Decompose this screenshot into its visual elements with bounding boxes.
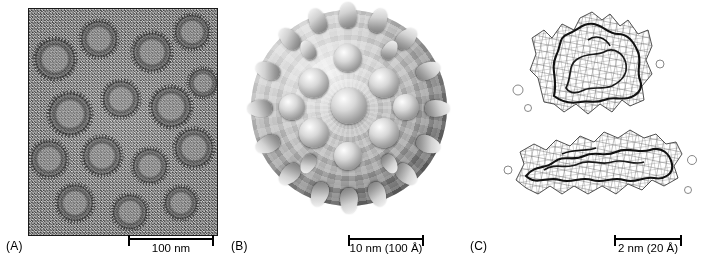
- figure-panel-group: (A) 100 nm: [0, 0, 724, 278]
- capsid-spike: [339, 2, 357, 28]
- panel-b-label: (B): [231, 239, 248, 253]
- panel-c: [492, 4, 714, 232]
- panel-b-scalebar: 10 nm (100 Å): [348, 238, 424, 254]
- capsomer: [369, 68, 399, 98]
- virus-particle: [81, 21, 117, 57]
- panel-b: [243, 6, 455, 228]
- cryo-em-micrograph-image: [28, 8, 218, 236]
- virus-particle: [175, 15, 209, 49]
- capsomer: [393, 94, 419, 120]
- panel-a-scalebar: 100 nm: [128, 238, 214, 254]
- panel-a-scalebar-label: 100 nm: [128, 242, 214, 254]
- panel-a-scalebar-line: [128, 238, 214, 240]
- virus-particle: [103, 81, 139, 117]
- capsomer: [369, 118, 399, 148]
- capsid-spike: [340, 188, 358, 214]
- capsomer: [299, 68, 329, 98]
- virus-particle: [83, 137, 121, 175]
- virus-particle: [49, 93, 91, 135]
- capsid-spike: [247, 100, 272, 117]
- virus-particle: [31, 141, 67, 177]
- panel-b-scalebar-label: 10 nm (100 Å): [348, 242, 424, 254]
- virus-particle: [57, 185, 93, 221]
- density-map-mesh-svg: [492, 4, 714, 232]
- capsomer: [279, 94, 305, 120]
- virus-particle: [175, 129, 213, 167]
- panel-c-label: (C): [470, 239, 487, 253]
- virus-particle: [133, 33, 171, 71]
- capsomer: [334, 44, 362, 72]
- density-mesh-bottom: [492, 122, 714, 232]
- panel-b-scalebar-line: [348, 238, 424, 240]
- capsomer: [331, 88, 367, 124]
- virus-particle: [151, 87, 191, 127]
- capsomer: [334, 142, 362, 170]
- panel-c-scalebar: 2 nm (20 Å): [614, 238, 682, 254]
- virus-particle: [165, 187, 197, 219]
- virus-particle: [189, 69, 217, 97]
- panel-a: [28, 8, 218, 236]
- panel-c-scalebar-label: 2 nm (20 Å): [614, 242, 682, 254]
- capsomer: [299, 118, 329, 148]
- density-mesh-top: [492, 4, 714, 124]
- virus-particle: [113, 195, 147, 229]
- virus-particle: [133, 149, 167, 183]
- panel-a-label: (A): [6, 239, 23, 253]
- virus-particle: [35, 39, 75, 79]
- panel-c-scalebar-line: [614, 238, 682, 240]
